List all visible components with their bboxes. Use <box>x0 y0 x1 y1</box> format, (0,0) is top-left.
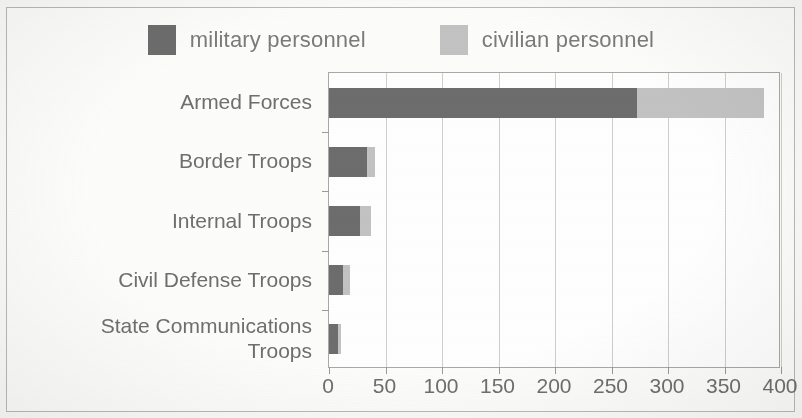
y-axis-category-label: State Communications Troops <box>101 313 312 363</box>
y-axis-tick-mark <box>322 310 329 311</box>
x-axis-tick-mark <box>499 367 500 374</box>
x-axis-tick-mark <box>725 367 726 374</box>
bar-row <box>329 206 371 236</box>
bar-row <box>329 88 764 118</box>
bar-segment-civilian <box>338 324 341 354</box>
y-axis-category-label: Armed Forces <box>180 89 312 114</box>
x-axis-tick-label: 350 <box>706 374 741 398</box>
x-axis-tick-mark <box>555 367 556 374</box>
bar-chart: Armed ForcesBorder TroopsInternal Troops… <box>0 0 802 418</box>
bar-segment-military <box>329 324 338 354</box>
x-axis-tick-label: 400 <box>762 374 797 398</box>
y-axis-category-label: Civil Defense Troops <box>118 267 312 292</box>
y-axis-category-labels: Armed ForcesBorder TroopsInternal Troops… <box>10 72 322 368</box>
y-axis-category-label: Border Troops <box>179 148 312 173</box>
x-axis-tick-mark <box>386 367 387 374</box>
bar-segment-civilian <box>343 265 351 295</box>
x-axis-tick-label: 50 <box>373 374 396 398</box>
bar-segment-military <box>329 147 367 177</box>
bar-segment-civilian <box>360 206 371 236</box>
x-axis-tick-mark <box>781 367 782 374</box>
x-axis-tick-mark <box>668 367 669 374</box>
x-axis-tick-label: 0 <box>322 374 334 398</box>
scanned-page: military personnel civilian personnel Ar… <box>0 0 802 418</box>
bar-segment-military <box>329 88 637 118</box>
gridline-vertical <box>781 73 782 367</box>
x-axis-tick-label: 250 <box>593 374 628 398</box>
bar-row <box>329 324 341 354</box>
x-axis-tick-label: 300 <box>649 374 684 398</box>
x-axis-tick-mark <box>329 367 330 374</box>
x-axis-tick-mark <box>442 367 443 374</box>
y-axis-category-label: Internal Troops <box>172 208 312 233</box>
y-axis-tick-mark <box>322 251 329 252</box>
x-axis-tick-label: 150 <box>480 374 515 398</box>
bar-row <box>329 265 350 295</box>
plot-area <box>328 72 780 368</box>
bar-segment-civilian <box>637 88 764 118</box>
bar-segment-military <box>329 265 343 295</box>
bar-segment-civilian <box>367 147 375 177</box>
x-axis-tick-labels: 050100150200250300350400 <box>328 374 780 408</box>
y-axis-tick-mark <box>322 191 329 192</box>
x-axis-tick-label: 200 <box>536 374 571 398</box>
x-axis-tick-label: 100 <box>423 374 458 398</box>
y-axis-tick-mark <box>322 132 329 133</box>
bar-segment-military <box>329 206 360 236</box>
bar-row <box>329 147 375 177</box>
x-axis-tick-mark <box>612 367 613 374</box>
